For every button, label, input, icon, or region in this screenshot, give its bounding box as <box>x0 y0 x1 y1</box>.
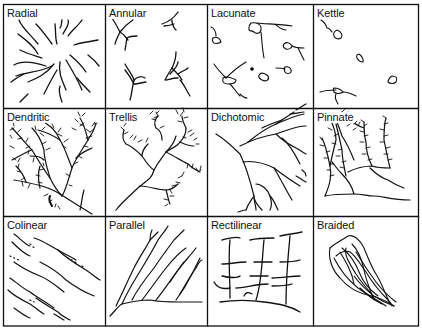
parallel-pattern <box>110 226 202 316</box>
rectilinear-pattern <box>214 232 302 312</box>
panel-label-dichotomic: Dichotomic <box>210 112 265 123</box>
braided-pattern <box>329 236 396 306</box>
panel-label-parallel: Parallel <box>108 220 146 231</box>
trellis-pattern <box>116 108 201 210</box>
grid-lines <box>4 5 419 327</box>
panel-label-annular: Annular <box>108 8 147 19</box>
panel-label-dendritic: Dendritic <box>6 112 51 123</box>
panel-label-rectilinear: Rectilinear <box>210 220 263 231</box>
dendritic-pattern <box>10 112 97 214</box>
colinear-pattern <box>8 234 100 320</box>
panel-label-lacunate: Lacunate <box>210 8 256 19</box>
panel-label-braided: Braided <box>316 220 355 231</box>
drainage-pattern-grid <box>0 0 422 331</box>
lacunate-pattern <box>211 23 304 98</box>
annular-pattern <box>112 12 190 100</box>
radial-pattern <box>11 20 99 102</box>
panel-label-kettle: Kettle <box>316 8 346 19</box>
panel-label-trellis: Trellis <box>108 112 138 123</box>
kettle-pattern <box>320 20 397 104</box>
panel-label-colinear: Colinear <box>6 220 48 231</box>
panel-label-radial: Radial <box>6 8 39 19</box>
panel-label-pinnate: Pinnate <box>316 112 355 123</box>
